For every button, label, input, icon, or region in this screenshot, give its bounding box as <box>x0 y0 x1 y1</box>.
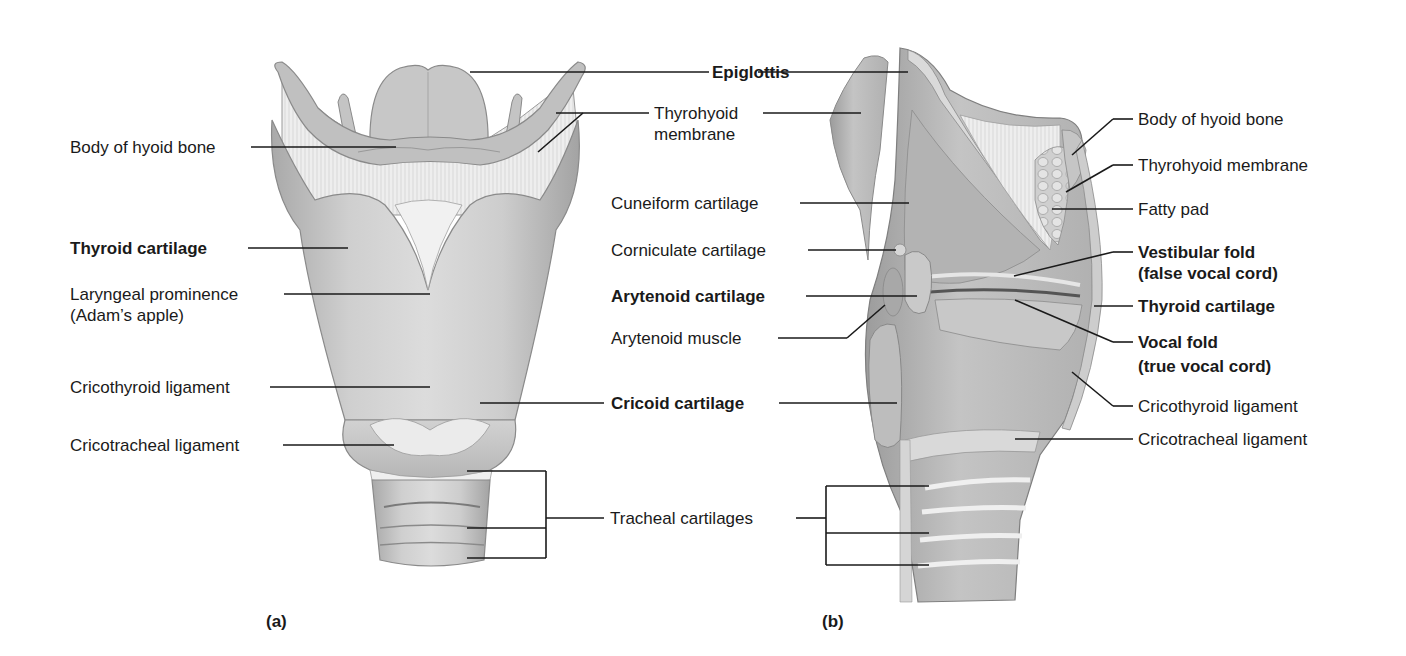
label-corniculate-cartilage: Corniculate cartilage <box>611 240 766 261</box>
label-epiglottis: Epiglottis <box>712 62 789 83</box>
label-cricoid-cartilage: Cricoid cartilage <box>611 393 744 414</box>
larynx-sagittal-view <box>830 48 1102 602</box>
label-cricotracheal-ligament-b: Cricotracheal ligament <box>1138 429 1307 450</box>
larynx-anterior-view <box>272 62 586 566</box>
label-body-of-hyoid-bone-b: Body of hyoid bone <box>1138 109 1284 130</box>
label-arytenoid-muscle: Arytenoid muscle <box>611 328 741 349</box>
label-thyrohyoid-membrane-a: Thyrohyoid <box>654 103 738 124</box>
label-laryngeal-prominence: Laryngeal prominence <box>70 284 238 305</box>
label-thyrohyoid-membrane-b: Thyrohyoid membrane <box>1138 155 1308 176</box>
label-cricotracheal-ligament-a: Cricotracheal ligament <box>70 435 239 456</box>
label-false-vocal-cord: (false vocal cord) <box>1138 263 1278 284</box>
label-vocal-fold: Vocal fold <box>1138 332 1218 353</box>
larynx-figure: Body of hyoid bone Thyroid cartilage Lar… <box>0 0 1406 656</box>
label-cricothyroid-ligament-b: Cricothyroid ligament <box>1138 396 1298 417</box>
label-body-of-hyoid-bone-a: Body of hyoid bone <box>70 137 216 158</box>
label-cricothyroid-ligament-a: Cricothyroid ligament <box>70 377 230 398</box>
label-fatty-pad: Fatty pad <box>1138 199 1209 220</box>
label-vestibular-fold: Vestibular fold <box>1138 242 1255 263</box>
label-arytenoid-cartilage: Arytenoid cartilage <box>611 286 765 307</box>
label-thyrohyoid-membrane-a-line2: membrane <box>654 124 735 145</box>
label-true-vocal-cord: (true vocal cord) <box>1138 356 1271 377</box>
panel-letter-b: (b) <box>822 612 844 632</box>
panel-letter-a: (a) <box>266 612 287 632</box>
label-thyroid-cartilage-b: Thyroid cartilage <box>1138 296 1275 317</box>
label-tracheal-cartilages: Tracheal cartilages <box>610 508 753 529</box>
label-cuneiform-cartilage: Cuneiform cartilage <box>611 193 758 214</box>
label-thyroid-cartilage-a: Thyroid cartilage <box>70 238 207 259</box>
label-adams-apple: (Adam’s apple) <box>70 305 184 326</box>
